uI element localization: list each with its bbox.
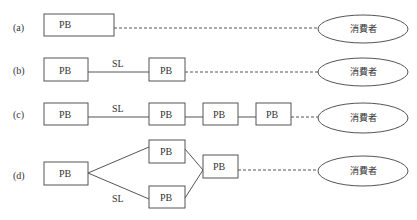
pb-node (44, 14, 114, 36)
pb-node-label: PB (213, 161, 226, 172)
solid-link (185, 170, 203, 198)
pb-node-label: PB (59, 19, 72, 30)
pb-node-label: PB (59, 65, 72, 76)
row-d: (d) PB SL PB PB PB 消費者 (13, 140, 408, 208)
consumer-label: 消費者 (350, 165, 377, 176)
sl-label: SL (112, 193, 124, 204)
solid-link (185, 149, 203, 170)
row-label-d: (d) (13, 170, 25, 182)
sl-label: SL (112, 58, 124, 69)
pb-node-label: PB (160, 192, 173, 203)
row-a: (a) PB 消費者 (13, 14, 408, 43)
pb-node-label: PB (160, 109, 173, 120)
pb-node-label: PB (213, 109, 226, 120)
pb-node-label: PB (59, 109, 72, 120)
row-label-c: (c) (13, 109, 24, 121)
pb-node-label: PB (160, 146, 173, 157)
row-label-b: (b) (13, 65, 25, 77)
pb-node-label: PB (59, 168, 72, 179)
row-b: (b) PB SL PB 消費者 (13, 58, 408, 86)
row-label-a: (a) (13, 22, 24, 34)
consumer-label: 消費者 (350, 112, 377, 123)
consumer-label: 消費者 (350, 23, 377, 34)
sl-label: SL (112, 103, 124, 114)
solid-link (88, 147, 149, 173)
pb-node-label: PB (160, 65, 173, 76)
consumer-label: 消費者 (350, 66, 377, 77)
row-c: (c) PB SL PB PB PB 消費者 (13, 103, 408, 133)
pb-node-label: PB (266, 109, 279, 120)
supply-chain-diagram: (a) PB 消費者 (b) PB SL PB 消費者 (c) PB SL PB… (0, 0, 417, 220)
